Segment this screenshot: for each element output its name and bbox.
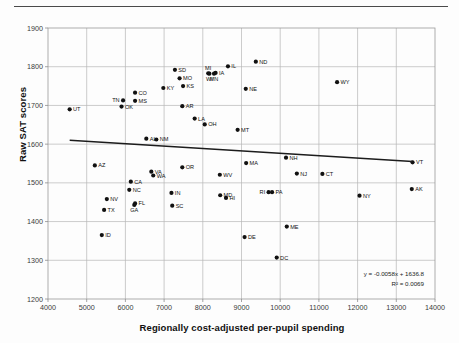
data-point-label: AK bbox=[415, 186, 423, 192]
data-point-label: TX bbox=[108, 207, 115, 213]
svg-text:1300: 1300 bbox=[27, 256, 43, 265]
data-point-label: MS bbox=[138, 98, 147, 104]
data-point: IL bbox=[226, 63, 236, 69]
data-point-label: KY bbox=[167, 85, 175, 91]
data-point: DC bbox=[275, 255, 289, 261]
data-point-label: LA bbox=[198, 116, 205, 122]
data-point-label: CA bbox=[134, 179, 142, 185]
svg-text:8000: 8000 bbox=[195, 303, 211, 312]
data-point-label: OR bbox=[186, 164, 194, 170]
x-axis-title: Regionally cost-adjusted per-pupil spend… bbox=[48, 322, 436, 333]
data-point-label: ID bbox=[105, 232, 111, 238]
data-point-label: ME bbox=[290, 224, 299, 230]
chart-page: 4000500060007000800090001000011000120001… bbox=[0, 0, 459, 343]
data-point: TX bbox=[102, 207, 115, 213]
svg-text:13000: 13000 bbox=[386, 303, 406, 312]
data-point-label: MO bbox=[183, 75, 193, 81]
scatter-chart: 4000500060007000800090001000011000120001… bbox=[0, 0, 459, 343]
data-point: AR bbox=[180, 103, 193, 109]
data-point: AZ bbox=[93, 162, 106, 168]
data-point: SD bbox=[173, 67, 186, 73]
data-point: DE bbox=[242, 234, 256, 240]
data-point: NY bbox=[357, 193, 371, 199]
data-point-label: FL bbox=[138, 200, 145, 206]
data-point-label: WV bbox=[223, 172, 232, 178]
data-point-label: MI bbox=[205, 65, 212, 71]
data-point: MA bbox=[244, 160, 258, 166]
svg-text:1200: 1200 bbox=[27, 295, 43, 304]
data-point: NE bbox=[244, 86, 258, 92]
data-point: CO bbox=[133, 90, 148, 96]
data-point: TN bbox=[112, 97, 125, 103]
data-point-label: IN bbox=[175, 190, 181, 196]
svg-text:5000: 5000 bbox=[79, 303, 95, 312]
data-point-label: DC bbox=[280, 255, 288, 261]
data-point-label: IL bbox=[231, 63, 236, 69]
data-point: WA bbox=[151, 173, 166, 179]
data-point: CT bbox=[320, 171, 334, 177]
svg-text:1500: 1500 bbox=[27, 178, 43, 187]
data-point-label: CT bbox=[326, 171, 334, 177]
data-point-label: AZ bbox=[98, 162, 106, 168]
data-point-label: MN bbox=[210, 76, 219, 82]
data-point: NC bbox=[127, 187, 141, 193]
gridlines bbox=[48, 28, 435, 299]
data-point: RI bbox=[260, 189, 271, 195]
data-point-label: NJ bbox=[300, 171, 307, 177]
x-axis-tick-labels: 4000500060007000800090001000011000120001… bbox=[40, 299, 445, 312]
data-point: MT bbox=[236, 127, 250, 133]
data-point: IN bbox=[169, 190, 180, 196]
plot-canvas: 4000500060007000800090001000011000120001… bbox=[0, 0, 459, 343]
y-axis-tick-labels: 12001300140015001600170018001900 bbox=[27, 24, 48, 304]
data-point-label: NC bbox=[133, 187, 141, 193]
data-point: PA bbox=[270, 189, 283, 195]
data-point-label: MT bbox=[241, 127, 250, 133]
svg-text:1400: 1400 bbox=[27, 217, 43, 226]
data-point: ND bbox=[254, 59, 268, 65]
data-point: MS bbox=[133, 98, 147, 104]
r-squared-text: R² = 0.0069 bbox=[391, 280, 424, 287]
data-point-label: CO bbox=[138, 90, 147, 96]
data-point-label: NM bbox=[160, 136, 169, 142]
svg-text:10000: 10000 bbox=[270, 303, 290, 312]
data-point-label: GA bbox=[130, 207, 138, 213]
svg-text:6000: 6000 bbox=[117, 303, 133, 312]
data-point: ID bbox=[100, 232, 111, 238]
trendline bbox=[70, 140, 413, 161]
data-point: OH bbox=[203, 121, 217, 127]
data-point: NH bbox=[284, 155, 298, 161]
data-point: SC bbox=[170, 203, 183, 209]
data-point-label: NV bbox=[110, 196, 118, 202]
data-point-label: OK bbox=[125, 104, 133, 110]
data-point: KS bbox=[181, 83, 194, 89]
data-point-label: WY bbox=[340, 79, 349, 85]
data-point-label: NY bbox=[363, 193, 371, 199]
svg-text:14000: 14000 bbox=[425, 303, 445, 312]
svg-text:1900: 1900 bbox=[27, 24, 43, 33]
data-point-label: PA bbox=[275, 189, 282, 195]
svg-text:1700: 1700 bbox=[27, 101, 43, 110]
svg-text:1800: 1800 bbox=[27, 62, 43, 71]
data-point: MO bbox=[177, 75, 192, 81]
data-point-label: HI bbox=[229, 195, 235, 201]
data-point-label: NE bbox=[249, 86, 257, 92]
data-point-label: AR bbox=[186, 103, 194, 109]
data-point: GA bbox=[130, 203, 138, 213]
data-point-label: DE bbox=[248, 234, 256, 240]
svg-text:7000: 7000 bbox=[156, 303, 172, 312]
data-point-label: TN bbox=[112, 97, 119, 103]
data-point-label: ND bbox=[259, 59, 267, 65]
data-point: CA bbox=[129, 179, 143, 185]
y-axis-title: Raw SAT scores bbox=[17, 77, 28, 173]
data-point: NV bbox=[105, 196, 119, 202]
data-point-label: KS bbox=[186, 83, 194, 89]
data-point-label: RI bbox=[260, 189, 266, 195]
data-point-label: IA bbox=[219, 70, 225, 76]
data-point: AK bbox=[410, 186, 423, 192]
svg-text:1600: 1600 bbox=[27, 140, 43, 149]
data-point-label: MA bbox=[250, 160, 259, 166]
svg-text:9000: 9000 bbox=[234, 303, 250, 312]
data-point: WY bbox=[335, 79, 350, 85]
data-point: LA bbox=[193, 116, 206, 122]
data-point: ME bbox=[285, 224, 299, 230]
